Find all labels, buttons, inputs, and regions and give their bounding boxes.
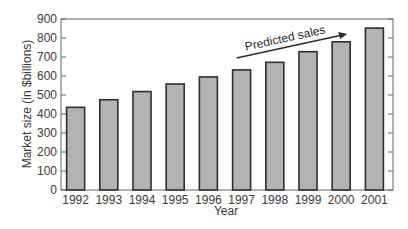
bar-2000	[332, 42, 350, 190]
bar-chart: 0100200300400500600700800900 19921993199…	[0, 0, 408, 229]
bar-1998	[266, 62, 284, 190]
y-tick-label: 700	[37, 50, 57, 64]
x-tick-label: 1992	[62, 193, 89, 207]
x-tick-label: 1995	[162, 193, 189, 207]
bar-1992	[67, 107, 85, 190]
x-tick-label: 2001	[361, 193, 388, 207]
x-tick-label: 1999	[295, 193, 322, 207]
x-axis-title: Year	[214, 204, 238, 218]
x-tick-label: 1998	[261, 193, 288, 207]
bar-1996	[199, 77, 217, 190]
predicted-sales-annotation: Predicted sales	[237, 23, 348, 58]
bar-1995	[166, 84, 184, 190]
bar-1997	[233, 70, 251, 190]
bar-2001	[365, 28, 383, 190]
bars	[67, 28, 384, 190]
y-tick-label: 200	[37, 145, 57, 159]
bar-1994	[133, 92, 151, 190]
x-tick-label: 1994	[129, 193, 156, 207]
bar-1993	[100, 100, 118, 190]
y-tick-label: 900	[37, 12, 57, 26]
y-tick-label: 400	[37, 107, 57, 121]
y-tick-label: 500	[37, 88, 57, 102]
bar-1999	[299, 52, 317, 190]
arrow-head-icon	[338, 32, 347, 39]
y-axis-title: Market size (in $billions)	[20, 40, 34, 169]
y-tick-label: 100	[37, 164, 57, 178]
y-tick-label: 600	[37, 69, 57, 83]
x-tick-label: 1993	[95, 193, 122, 207]
y-tick-label: 300	[37, 126, 57, 140]
annotation-text: Predicted sales	[243, 23, 326, 54]
y-tick-label: 0	[50, 183, 57, 197]
y-tick-label: 800	[37, 31, 57, 45]
x-tick-label: 2000	[328, 193, 355, 207]
